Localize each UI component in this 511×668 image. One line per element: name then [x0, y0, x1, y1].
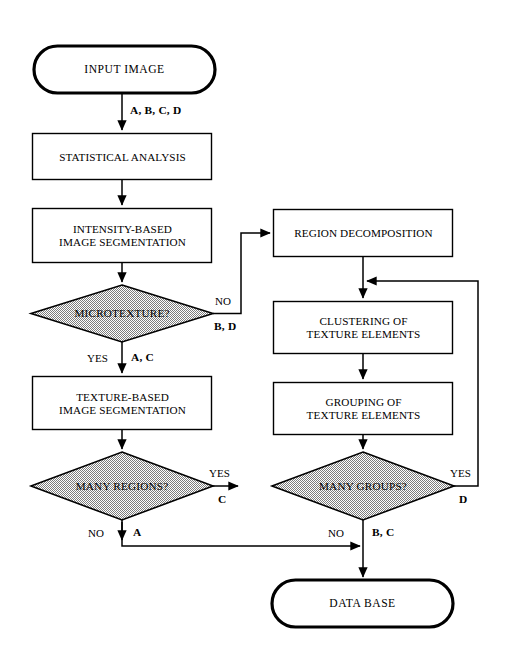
node-shape-many-regions [31, 452, 213, 520]
node-shape-region-decomposition [274, 210, 453, 257]
node-shape-statistical-analysis [33, 134, 212, 180]
node-shape-grouping [274, 383, 453, 435]
node-shape-many-groups [272, 452, 454, 520]
node-shape-intensity-segmentation [33, 209, 212, 263]
node-shape-data-base [272, 580, 453, 627]
node-shape-texture-segmentation [33, 377, 212, 430]
node-shape-microtexture [31, 285, 213, 342]
node-shape-input-image [34, 46, 215, 93]
node-shape-clustering [274, 302, 453, 354]
flowchart-canvas [0, 0, 511, 668]
flowchart-diagram: INPUT IMAGE STATISTICAL ANALYSIS INTENSI… [0, 0, 511, 668]
edge-microtexture-no [213, 233, 270, 314]
edge-manyregions-no [122, 520, 360, 546]
